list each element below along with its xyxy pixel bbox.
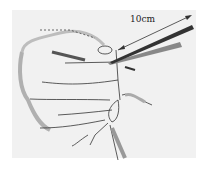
- measurement-label: 10cm: [130, 14, 155, 24]
- hand-drawing: [0, 0, 210, 173]
- illustration: 10cm: [0, 0, 210, 173]
